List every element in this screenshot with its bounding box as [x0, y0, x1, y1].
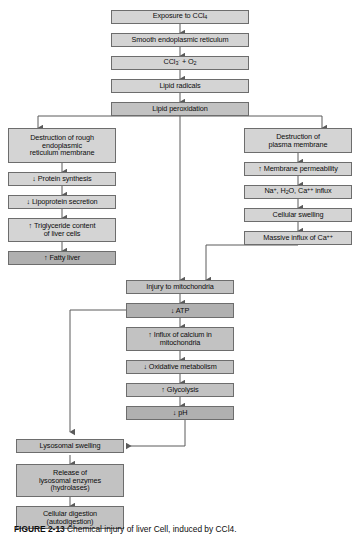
node-ccl3-o2: CCl3· + O2	[111, 56, 249, 70]
node-lipid-peroxidation-label: Lipid peroxidation	[114, 105, 246, 113]
node-protein-synthesis-label: ↓ Protein synthesis	[11, 175, 113, 183]
node-influx-calcium-mitochondria: ↑ Influx of calcium inmitochondria	[126, 327, 234, 351]
node-release-lysosomal-enzymes: Release oflysosomal enzymes(hydrolases)	[16, 464, 124, 497]
node-lipoprotein-secretion-label: ↓ Lipoprotein secretion	[11, 198, 113, 206]
node-oxidative-metabolism: ↓ Oxidative metabolism	[126, 360, 234, 374]
node-destruction-plasma-membrane: Destruction ofplasma membrane	[244, 128, 352, 153]
node-protein-synthesis: ↓ Protein synthesis	[8, 172, 116, 186]
node-exposure-label: Exposure to CCl4	[114, 12, 246, 21]
node-destruction-rough-er-label: Destruction of roughendoplasmicreticulum…	[11, 134, 113, 158]
node-atp: ↓ ATP	[126, 303, 234, 318]
node-oxidative-metabolism-label: ↓ Oxidative metabolism	[129, 363, 231, 371]
figure-root: Exposure to CCl4 Smooth endoplasmic reti…	[0, 0, 360, 536]
node-smooth-endoplasmic-reticulum: Smooth endoplasmic reticulum	[111, 33, 249, 47]
figure-caption-number: FIGURE 2-13	[14, 524, 65, 534]
node-massive-influx-ca: Massive influx of Ca++	[244, 231, 352, 245]
node-ion-influx-label: Na+, H2O, Ca++ influx	[247, 187, 349, 196]
node-glycolysis-label: ↑ Glycolysis	[129, 386, 231, 394]
node-membrane-permeability: ↑ Membrane permeability	[244, 162, 352, 176]
figure-caption: FIGURE 2-13 Chemical injury of liver Cel…	[14, 524, 354, 536]
node-injury-to-mitochondria-label: Injury to mitochondria	[129, 283, 231, 291]
node-lysosomal-swelling-label: Lysosomal swelling	[19, 442, 121, 450]
node-cellular-swelling: Cellular swelling	[244, 208, 352, 222]
node-cellular-digestion-label: Cellular digestion(autodigestion)	[19, 510, 121, 526]
node-influx-calcium-mitochondria-label: ↑ Influx of calcium inmitochondria	[129, 331, 231, 347]
node-ser-label: Smooth endoplasmic reticulum	[114, 36, 246, 44]
node-ph: ↓ pH	[126, 406, 234, 420]
node-injury-to-mitochondria: Injury to mitochondria	[126, 280, 234, 294]
node-atp-label: ↓ ATP	[129, 307, 231, 315]
node-lipid-peroxidation: Lipid peroxidation	[111, 102, 249, 116]
node-ccl3-label: CCl3· + O2	[114, 58, 246, 67]
node-fatty-liver: ↑ Fatty liver	[8, 251, 116, 265]
node-destruction-rough-er: Destruction of roughendoplasmicreticulum…	[8, 128, 116, 163]
node-release-lysosomal-enzymes-label: Release oflysosomal enzymes(hydrolases)	[19, 469, 121, 493]
figure-caption-text: Chemical injury of liver Cell, induced b…	[67, 524, 236, 534]
node-glycolysis: ↑ Glycolysis	[126, 383, 234, 397]
node-ph-label: ↓ pH	[129, 409, 231, 417]
node-ion-influx: Na+, H2O, Ca++ influx	[244, 185, 352, 199]
node-lipid-radicals: Lipid radicals	[111, 79, 249, 93]
node-exposure-to-ccl4: Exposure to CCl4	[111, 10, 249, 24]
node-cellular-swelling-label: Cellular swelling	[247, 211, 349, 219]
node-fatty-liver-label: ↑ Fatty liver	[11, 254, 113, 262]
node-lysosomal-swelling: Lysosomal swelling	[16, 439, 124, 453]
node-lipoprotein-secretion: ↓ Lipoprotein secretion	[8, 195, 116, 209]
node-membrane-permeability-label: ↑ Membrane permeability	[247, 165, 349, 173]
node-massive-influx-ca-label: Massive influx of Ca++	[247, 234, 349, 242]
node-triglyceride-content: ↑ Triglyceride contentof liver cells	[8, 218, 116, 242]
node-destruction-plasma-membrane-label: Destruction ofplasma membrane	[247, 133, 349, 149]
node-triglyceride-content-label: ↑ Triglyceride contentof liver cells	[11, 222, 113, 238]
node-lipid-radicals-label: Lipid radicals	[114, 82, 246, 90]
